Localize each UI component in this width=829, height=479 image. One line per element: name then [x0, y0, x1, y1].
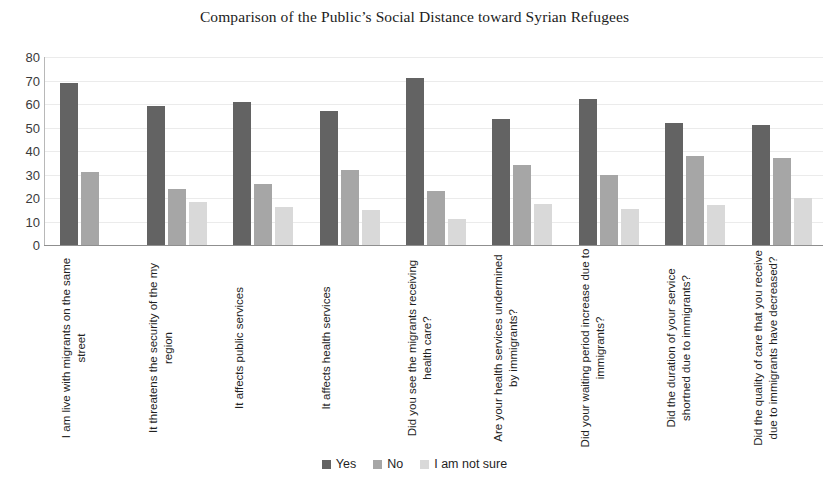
legend-label: I am not sure [434, 457, 507, 471]
bar-group [752, 57, 812, 245]
x-axis-category-labels: I am live with migrants on the same stre… [45, 248, 823, 453]
x-axis-label: I am live with migrants on the same stre… [59, 248, 121, 448]
bar-no [513, 165, 531, 245]
y-axis-labels: 80706050403020100 [0, 0, 40, 479]
bar-group [320, 57, 380, 245]
bar-ns [707, 205, 725, 245]
bar-group [147, 57, 207, 245]
bar-group [60, 57, 120, 245]
bar-no [427, 191, 445, 245]
bar-yes [320, 111, 338, 245]
bar-ns [448, 219, 466, 245]
bar-ns [362, 210, 380, 245]
chart-title: Comparison of the Public’s Social Distan… [0, 8, 829, 26]
bar-yes [233, 102, 251, 245]
legend-label: No [387, 457, 403, 471]
bar-yes [147, 106, 165, 245]
y-axis-tick-label: 0 [4, 238, 40, 253]
bar-group [233, 57, 293, 245]
bar-yes [579, 99, 597, 245]
y-axis-tick-label: 70 [4, 73, 40, 88]
y-axis-tick-label: 40 [4, 144, 40, 159]
bar-ns [621, 209, 639, 245]
y-axis-tick-label: 10 [4, 214, 40, 229]
y-axis-tick-label: 50 [4, 120, 40, 135]
bar-ns [794, 198, 812, 245]
x-axis-label: It threatens the security of the my regi… [146, 248, 208, 448]
bar-no [773, 158, 791, 245]
bar-yes [492, 119, 510, 245]
chart-legend: YesNoI am not sure [0, 457, 829, 471]
y-axis-tick-label: 20 [4, 191, 40, 206]
x-axis-label: Did your waiting period increase due to … [578, 248, 640, 448]
legend-item: No [373, 457, 403, 471]
legend-swatch-icon [373, 460, 382, 469]
bar-group [665, 57, 725, 245]
x-axis-label: Did the duration of your service shortne… [664, 248, 726, 448]
bar-yes [752, 125, 770, 245]
x-axis-label: It affects health services [319, 248, 381, 448]
bar-no [600, 175, 618, 246]
bar-no [168, 189, 186, 245]
bar-ns [534, 204, 552, 245]
bar-groups [45, 57, 823, 245]
bar-group [579, 57, 639, 245]
y-axis-tick-label: 30 [4, 167, 40, 182]
bar-yes [406, 78, 424, 245]
bar-no [686, 156, 704, 245]
bar-no [81, 172, 99, 245]
x-axis-label: Did the quality of care that you receive… [751, 248, 813, 448]
x-axis-line [44, 245, 823, 246]
bar-yes [665, 123, 683, 245]
bar-ns [189, 202, 207, 245]
y-axis-tick-label: 80 [4, 50, 40, 65]
bar-no [341, 170, 359, 245]
x-axis-label: Are your health services undermined by i… [491, 248, 553, 448]
legend-item: Yes [322, 457, 356, 471]
bar-group [406, 57, 466, 245]
legend-label: Yes [336, 457, 356, 471]
y-axis-tick-label: 60 [4, 97, 40, 112]
bar-no [254, 184, 272, 245]
bar-group [492, 57, 552, 245]
legend-swatch-icon [322, 460, 331, 469]
bar-yes [60, 83, 78, 245]
legend-swatch-icon [420, 460, 429, 469]
x-axis-label: It affects public services [232, 248, 294, 448]
legend-item: I am not sure [420, 457, 507, 471]
x-axis-label: Did you see the migrants receiving healt… [405, 248, 467, 448]
bar-ns [275, 207, 293, 245]
